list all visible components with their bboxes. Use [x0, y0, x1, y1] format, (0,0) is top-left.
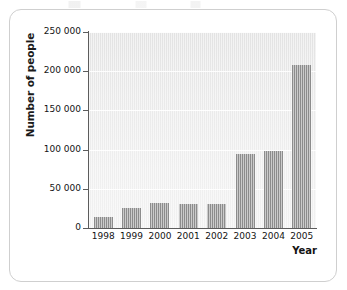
- y-axis-tick: [83, 110, 88, 111]
- gridline: [89, 32, 316, 33]
- x-axis-tick-label: 2003: [231, 231, 259, 241]
- y-axis-tick-label: 150 000: [44, 104, 81, 114]
- x-axis-tick-label: 2005: [288, 231, 316, 241]
- y-axis-tick: [83, 228, 88, 229]
- x-axis-tick-label: 2000: [146, 231, 174, 241]
- y-axis-tick: [83, 71, 88, 72]
- gridline: [89, 71, 316, 72]
- bar: [150, 203, 169, 228]
- y-axis-tick-label: 50 000: [50, 183, 82, 193]
- y-axis-tick: [83, 150, 88, 151]
- y-axis-title: Number of people: [24, 30, 36, 140]
- x-axis-tick-label: 1999: [118, 231, 146, 241]
- bar: [179, 204, 198, 228]
- y-axis-tick: [83, 32, 88, 33]
- bar: [207, 204, 226, 228]
- gridline: [89, 110, 316, 111]
- x-axis-tick-label: 2002: [203, 231, 231, 241]
- bar: [264, 151, 283, 228]
- y-axis-tick-label: 0: [75, 222, 81, 232]
- x-axis-tick-label: 1998: [89, 231, 117, 241]
- y-axis-tick: [83, 189, 88, 190]
- y-axis-tick-label: 100 000: [44, 144, 81, 154]
- x-axis-line: [88, 228, 317, 229]
- x-axis-tick-label: 2001: [174, 231, 202, 241]
- plot-area: [89, 32, 316, 228]
- y-axis-tick-label: 200 000: [44, 65, 81, 75]
- bar: [94, 217, 113, 228]
- y-axis-tick-label: 250 000: [44, 26, 81, 36]
- y-axis-line: [88, 31, 89, 229]
- x-axis-tick-label: 2004: [259, 231, 287, 241]
- x-axis-title: Year: [247, 245, 317, 256]
- bar: [292, 65, 311, 228]
- bar: [236, 154, 255, 228]
- bar: [122, 208, 141, 228]
- bar-chart: Number of people 050 000100 000150 00020…: [0, 0, 347, 290]
